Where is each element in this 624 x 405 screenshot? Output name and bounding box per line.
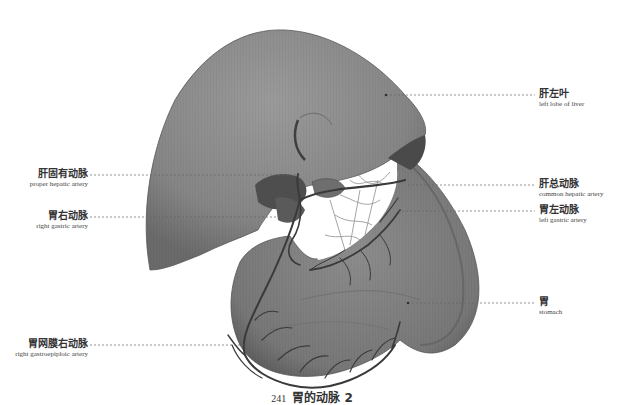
label-zh: 胃 xyxy=(539,297,562,307)
label-en: stomach xyxy=(539,309,562,316)
label-zh: 胃右动脉 xyxy=(36,211,88,221)
label-zh: 胃网膜右动脉 xyxy=(15,339,88,349)
label-en: left gastric artery xyxy=(539,217,587,224)
label-left-lobe-of-liver: 肝左叶 left lobe of liver xyxy=(539,89,584,108)
label-en: left lobe of liver xyxy=(539,101,584,108)
label-right-gastroepiploic-artery: 胃网膜右动脉 right gastroepiploic artery xyxy=(15,339,88,358)
label-zh: 胃左动脉 xyxy=(539,205,587,215)
label-zh: 肝固有动脉 xyxy=(30,169,88,179)
label-en: proper hepatic artery xyxy=(30,181,88,188)
label-en: right gastroepiploic artery xyxy=(15,351,88,358)
label-stomach: 胃 stomach xyxy=(539,297,562,316)
figure-title: 胃的动脉 2 xyxy=(292,391,353,405)
label-en: right gastric artery xyxy=(36,223,88,230)
label-zh: 肝总动脉 xyxy=(539,179,604,189)
figure-number: 241 xyxy=(271,393,286,404)
label-right-gastric-artery: 胃右动脉 right gastric artery xyxy=(36,211,88,230)
label-en: common hepatic artery xyxy=(539,191,604,198)
label-left-gastric-artery: 胃左动脉 left gastric artery xyxy=(539,205,587,224)
label-common-hepatic-artery: 肝总动脉 common hepatic artery xyxy=(539,179,604,198)
figure-caption: 241胃的动脉 2 xyxy=(0,388,624,405)
label-proper-hepatic-artery: 肝固有动脉 proper hepatic artery xyxy=(30,169,88,188)
label-zh: 肝左叶 xyxy=(539,89,584,99)
